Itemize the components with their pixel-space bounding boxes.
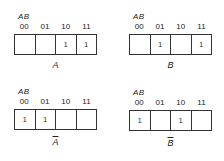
kmap-cells: 1 1 (129, 110, 212, 131)
function-name: A (52, 137, 58, 147)
kmap-cell: 1 (56, 35, 77, 54)
kmap-cell (15, 35, 36, 54)
kmap-cell: 1 (15, 110, 36, 129)
column-label: 11 (76, 22, 97, 31)
kmap-cells: 1 1 (14, 34, 97, 55)
column-label: 10 (56, 22, 77, 31)
kmap-cell: 1 (171, 111, 192, 130)
kmap-cell (171, 35, 192, 54)
kmap-cells: 1 1 (129, 34, 212, 55)
kmap-cells: 1 1 (14, 109, 97, 130)
column-label: 00 (14, 97, 35, 106)
kmap-a: AB 00 01 10 11 1 1 A (14, 12, 114, 87)
kmap-cell: 1 (36, 110, 57, 129)
column-label: 01 (150, 22, 171, 31)
kmap-cell (192, 111, 212, 130)
kmap-cell (77, 110, 97, 129)
kmap-a-complement: AB 00 01 10 11 1 1 A (14, 87, 114, 161)
column-label: 11 (191, 22, 212, 31)
column-label: 01 (35, 97, 56, 106)
kmap-cell: 1 (130, 111, 151, 130)
kmap-cell: 1 (192, 35, 212, 54)
column-labels: 00 01 10 11 (14, 97, 97, 106)
column-label: 10 (56, 97, 77, 106)
column-label: 11 (76, 97, 97, 106)
column-labels: 00 01 10 11 (129, 22, 212, 31)
column-label: 01 (150, 98, 171, 107)
column-label: 11 (191, 98, 212, 107)
ab-variable-label: AB (18, 12, 30, 21)
function-name: A (52, 60, 58, 70)
column-label: 00 (129, 98, 150, 107)
function-name: B (167, 138, 173, 148)
ab-variable-label: AB (18, 87, 30, 96)
column-labels: 00 01 10 11 (129, 98, 212, 107)
column-label: 10 (171, 22, 192, 31)
kmap-cell (130, 35, 151, 54)
function-label: A (14, 60, 97, 70)
ab-variable-label: AB (133, 12, 145, 21)
ab-variable-label: AB (133, 88, 145, 97)
function-label: A (14, 137, 97, 147)
kmap-cell (36, 35, 57, 54)
column-label: 00 (129, 22, 150, 31)
column-label: 00 (14, 22, 35, 31)
function-name: B (167, 60, 173, 70)
function-label: B (129, 138, 212, 148)
kmap-b-complement: AB 00 01 10 11 1 1 B (129, 88, 224, 161)
kmap-cell: 1 (151, 35, 172, 54)
kmap-b: AB 00 01 10 11 1 1 B (129, 12, 224, 87)
column-label: 01 (35, 22, 56, 31)
kmap-cell: 1 (77, 35, 97, 54)
kmap-cell (151, 111, 172, 130)
kmap-cell (56, 110, 77, 129)
function-label: B (129, 60, 212, 70)
column-labels: 00 01 10 11 (14, 22, 97, 31)
column-label: 10 (171, 98, 192, 107)
